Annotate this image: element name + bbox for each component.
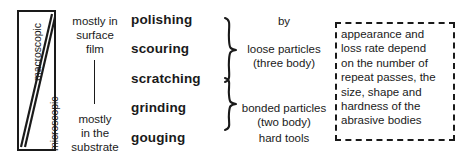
wear-term-scratching: scratching — [131, 72, 221, 86]
depth-label-substrate: mostly in the substrate — [59, 112, 131, 154]
brace-loose-particles — [225, 18, 236, 82]
abrasive-wear-diagram: macroscopic microscopic mostly in surfac… — [0, 0, 468, 159]
agent-label-loose-particles: loose particles (three body) — [236, 42, 332, 70]
scale-label-macroscopic: macroscopic — [31, 23, 43, 81]
wear-term-gouging: gouging — [131, 131, 221, 145]
agent-label-by: by — [236, 14, 332, 28]
wear-term-scouring: scouring — [131, 42, 221, 56]
agent-label-hard-tools: hard tools — [236, 131, 332, 145]
depth-connector-line — [94, 60, 95, 104]
brace-bonded-particles — [225, 78, 236, 130]
wear-term-polishing: polishing — [131, 13, 221, 27]
note-box-text: appearance and loss rate depend on the n… — [341, 27, 453, 128]
depth-label-surface-film: mostly in surface film — [59, 14, 131, 56]
wear-term-grinding: grinding — [131, 101, 221, 115]
agent-label-bonded-particles: bonded particles (two body) — [236, 101, 332, 129]
